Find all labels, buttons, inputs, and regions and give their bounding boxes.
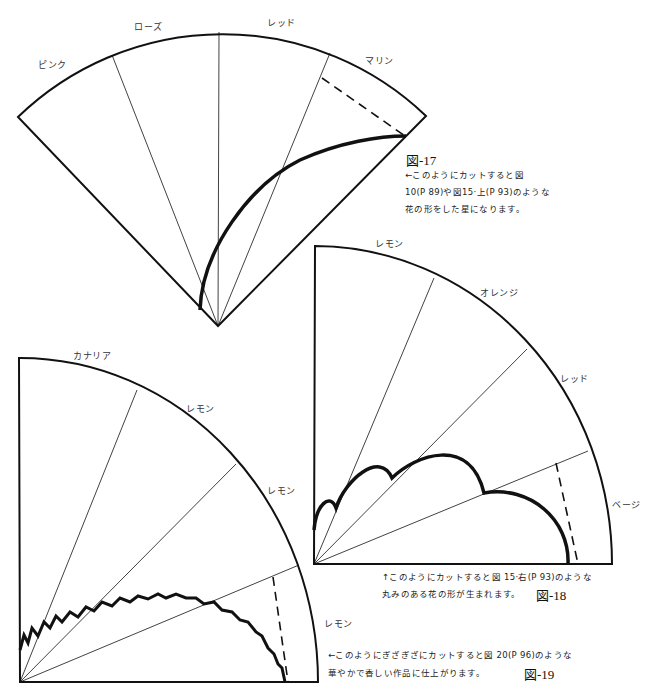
- fig18-radial-3: [314, 451, 588, 564]
- fig18-quarter: [314, 246, 612, 564]
- fig17-segment-label-3: レッド: [267, 16, 296, 29]
- fig18-caption-line-1: ↑このようにカットすると図 15·右(P 93)のような: [382, 569, 592, 586]
- fig19-segment-label-2: レモン: [186, 402, 215, 415]
- fig19-quarter: [19, 358, 318, 682]
- fig17-radial-2: [218, 32, 219, 326]
- fig17-outline: [18, 34, 426, 326]
- fig18-segment-label-2: オレンジ: [480, 286, 518, 299]
- fig18-segment-label-1: レモン: [375, 237, 404, 250]
- fig17-segment-label-1: ピンク: [38, 58, 67, 71]
- fig19-number: 図-19: [524, 664, 554, 683]
- fig18-radial-1: [314, 278, 434, 564]
- fig17-fold-dashed: [322, 78, 405, 136]
- fig17-caption-line-2: 10(P 89)や図15·上(P 93)のような: [405, 184, 550, 201]
- fig18-outline: [314, 246, 612, 564]
- fig19-segment-label-1: カナリア: [73, 349, 111, 362]
- fig19-caption-line-1: ←このようにぎざぎざにカットすると図 20(P 96)のような: [328, 647, 572, 664]
- fig18-radial-2: [314, 349, 527, 564]
- fig18-number: 図-18: [536, 585, 566, 604]
- fig19-radial-2: [20, 464, 236, 682]
- fig17-radial-3: [218, 53, 330, 326]
- fig19-segment-label-3: レモン: [267, 484, 296, 497]
- fig17-segment-label-4: マリン: [365, 54, 394, 67]
- fig18-scallop-cut: [314, 455, 568, 564]
- fig19-outline: [19, 358, 318, 682]
- fig18-caption-line-2: 丸みのある花の形が生まれます。: [382, 586, 521, 603]
- fig17-caption-line-3: 花の形をした星になります。: [405, 201, 525, 218]
- fig19-segment-label-4: レモン: [324, 617, 353, 630]
- fig19-radial-1: [20, 390, 137, 682]
- fig17-fan: [18, 32, 426, 326]
- fig19-caption-line-2: 華やかで香しい作品に仕上がります。: [328, 665, 485, 682]
- fig17-cut-line: [200, 136, 406, 310]
- fig18-segment-label-3: レッド: [560, 372, 589, 385]
- fig17-caption-line-1: ←このようにカットすると図: [405, 167, 524, 184]
- fig19-zigzag-cut: [20, 594, 285, 682]
- fig18-segment-label-4: ベージ: [612, 498, 641, 511]
- fig17-segment-label-2: ローズ: [134, 20, 163, 33]
